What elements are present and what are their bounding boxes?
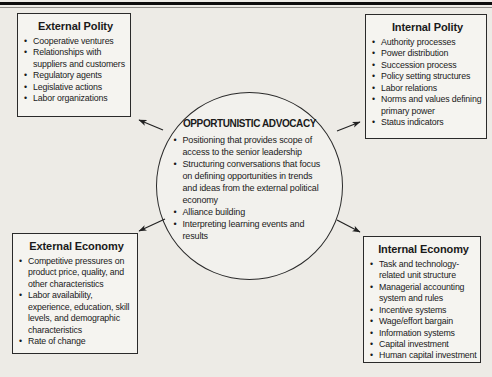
bullet-dot: • [372, 71, 381, 82]
bullet-item: •Managerial accounting system and rules [370, 282, 477, 305]
bullet-item: •Relationships with suppliers and custom… [24, 47, 127, 70]
bullet-text: Incentive systems [379, 305, 477, 316]
bullet-text: Labor organizations [33, 93, 127, 104]
bullet-item: •Incentive systems [370, 305, 477, 316]
bullet-dot: • [24, 36, 33, 47]
external-economy-list: •Competitive pressures on product price,… [19, 256, 134, 347]
top-rule-thick [0, 2, 492, 5]
bullet-dot: • [372, 117, 381, 128]
bullet-dot: • [174, 135, 183, 159]
bullet-dot: • [372, 37, 381, 48]
bullet-item: •Labor availability, experience, educati… [19, 290, 134, 336]
internal-polity-box: Internal Polity •Authority processes•Pow… [365, 14, 487, 139]
bullet-text: Status indicators [381, 117, 483, 128]
bullet-text: Positioning that provides scope of acces… [183, 135, 326, 159]
bullet-dot: • [174, 219, 183, 243]
opportunistic-advocacy-circle: OPPORTUNISTIC ADVOCACY •Positioning that… [156, 92, 343, 280]
bullet-dot: • [370, 305, 379, 316]
bullet-dot: • [370, 339, 379, 350]
bullet-item: •Legislative actions [24, 82, 127, 93]
top-rule-thin [0, 7, 492, 8]
bullet-text: Norms and values defining primary power [381, 94, 483, 117]
bullet-dot: • [370, 350, 379, 361]
bullet-text: Interpreting learning events and results [183, 219, 326, 243]
bullet-text: Cooperative ventures [33, 36, 127, 47]
bullet-item: •Human capital investment [370, 350, 477, 361]
bullet-item: •Policy setting structures [372, 71, 483, 82]
bullet-item: •Regulatory agents [24, 70, 127, 81]
bullet-item: •Labor organizations [24, 93, 127, 104]
circle-list: •Positioning that provides scope of acce… [174, 135, 326, 243]
bullet-dot: • [19, 336, 28, 347]
bullet-dot: • [24, 47, 33, 70]
internal-polity-title: Internal Polity [372, 21, 483, 33]
bullet-item: •Cooperative ventures [24, 36, 127, 47]
bullet-text: Human capital investment [379, 350, 477, 361]
bullet-item: •Labor relations [372, 83, 483, 94]
bullet-text: Succession process [381, 60, 483, 71]
bullet-text: Labor relations [381, 83, 483, 94]
bullet-text: Rate of change [28, 336, 134, 347]
bullet-item: •Positioning that provides scope of acce… [174, 135, 326, 159]
bullet-text: Managerial accounting system and rules [379, 282, 477, 305]
bullet-item: •Rate of change [19, 336, 134, 347]
bullet-dot: • [370, 316, 379, 327]
bullet-dot: • [19, 290, 28, 336]
bullet-item: •Structuring conversations that focus on… [174, 159, 326, 207]
bullet-item: •Succession process [372, 60, 483, 71]
external-polity-list: •Cooperative ventures•Relationships with… [24, 36, 127, 105]
diagram-page: External Polity •Cooperative ventures•Re… [0, 0, 492, 377]
internal-economy-list: •Task and technology-related unit struct… [370, 259, 477, 362]
bullet-text: Competitive pressures on product price, … [28, 256, 134, 290]
internal-economy-box: Internal Economy •Task and technology-re… [363, 236, 481, 363]
bullet-item: •Authority processes [372, 37, 483, 48]
external-economy-title: External Economy [19, 240, 134, 252]
bullet-dot: • [19, 256, 28, 290]
bullet-text: Policy setting structures [381, 71, 483, 82]
bullet-text: Legislative actions [33, 82, 127, 93]
bullet-text: Authority processes [381, 37, 483, 48]
bullet-item: •Interpreting learning events and result… [174, 219, 326, 243]
bullet-item: •Norms and values defining primary power [372, 94, 483, 117]
bullet-item: •Capital investment [370, 339, 477, 350]
bullet-dot: • [372, 60, 381, 71]
bullet-item: •Information systems [370, 328, 477, 339]
bullet-text: Relationships with suppliers and custome… [33, 47, 127, 70]
arrow-to-external-economy [139, 219, 165, 231]
bullet-item: •Power distribution [372, 48, 483, 59]
bullet-text: Alliance building [183, 207, 326, 219]
bullet-text: Capital investment [379, 339, 477, 350]
bullet-item: •Alliance building [174, 207, 326, 219]
bullet-dot: • [370, 282, 379, 305]
bullet-text: Power distribution [381, 48, 483, 59]
bullet-item: •Status indicators [372, 117, 483, 128]
bullet-dot: • [24, 82, 33, 93]
bullet-item: •Wage/effort bargain [370, 316, 477, 327]
bullet-dot: • [24, 70, 33, 81]
bullet-dot: • [372, 48, 381, 59]
bullet-dot: • [24, 93, 33, 104]
internal-economy-title: Internal Economy [370, 243, 477, 255]
bullet-text: Wage/effort bargain [379, 316, 477, 327]
bullet-dot: • [370, 328, 379, 339]
bullet-dot: • [370, 259, 379, 282]
internal-polity-list: •Authority processes•Power distribution•… [372, 37, 483, 128]
bullet-item: •Competitive pressures on product price,… [19, 256, 134, 290]
bullet-text: Structuring conversations that focus on … [183, 159, 326, 207]
bullet-dot: • [174, 207, 183, 219]
bullet-text: Information systems [379, 328, 477, 339]
bullet-dot: • [174, 159, 183, 207]
circle-title: OPPORTUNISTIC ADVOCACY [157, 118, 342, 129]
external-polity-box: External Polity •Cooperative ventures•Re… [17, 13, 131, 117]
bullet-dot: • [372, 94, 381, 117]
external-economy-box: External Economy •Competitive pressures … [12, 233, 138, 354]
bullet-text: Labor availability, experience, educatio… [28, 290, 134, 336]
bullet-dot: • [372, 83, 381, 94]
external-polity-title: External Polity [24, 20, 127, 32]
bullet-text: Regulatory agents [33, 70, 127, 81]
arrow-to-internal-economy [337, 220, 360, 232]
bullet-text: Task and technology-related unit structu… [379, 259, 477, 282]
bullet-item: •Task and technology-related unit struct… [370, 259, 477, 282]
